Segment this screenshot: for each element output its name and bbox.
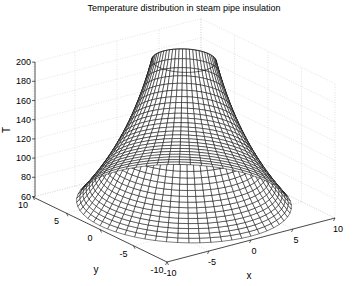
x-tick-label: -5: [208, 257, 216, 267]
mesh-cell: [168, 113, 175, 118]
mesh-cell: [188, 196, 197, 202]
y-tick-label: -10: [150, 265, 163, 275]
y-tick-label: 0: [87, 233, 92, 243]
y-tick-label: -5: [119, 249, 127, 259]
mesh-cell: [179, 202, 188, 208]
mesh-cell: [188, 208, 197, 213]
mesh-cell: [181, 131, 189, 135]
mesh-cell: [173, 127, 181, 131]
mesh-cell: [163, 189, 172, 196]
mesh-cell: [198, 223, 209, 228]
x-tick-label: -10: [163, 268, 176, 278]
mesh-cell: [188, 218, 198, 223]
z-tick-label: 60: [21, 192, 31, 202]
mesh-cell: [182, 68, 186, 76]
mesh-cell: [180, 164, 187, 171]
mesh-cell: [199, 233, 210, 238]
mesh-cell: [175, 103, 181, 109]
mesh-cell: [171, 90, 177, 97]
mesh-cell: [178, 233, 189, 238]
z-tick-label: 100: [16, 153, 31, 163]
mesh-cell: [174, 123, 181, 127]
mesh-cell: [186, 59, 190, 68]
mesh-cell: [182, 59, 186, 68]
mesh-cell: [187, 108, 193, 114]
mesh-cell: [181, 123, 188, 128]
mesh-cell: [182, 90, 187, 97]
z-axis-label: T: [1, 127, 12, 133]
mesh-cell: [191, 76, 196, 84]
mesh-cell: [181, 103, 187, 109]
x-axis-label: x: [247, 270, 252, 281]
mesh-cell: [165, 170, 173, 177]
y-tick-label: 10: [18, 200, 28, 210]
mesh-cell: [171, 196, 180, 202]
x-tick-label: 10: [333, 224, 343, 234]
mesh-cell: [180, 139, 189, 143]
mesh-cell: [175, 108, 181, 113]
mesh-cell: [206, 212, 216, 218]
mesh-cell: [157, 162, 168, 165]
mesh-cell: [190, 162, 201, 165]
mesh-cell: [169, 154, 179, 157]
mesh-cell: [180, 145, 189, 148]
mesh-cell: [202, 183, 210, 190]
mesh-cell: [162, 195, 171, 202]
mesh-cell: [187, 164, 194, 171]
mesh-cell: [179, 162, 190, 165]
mesh-cell: [188, 213, 198, 218]
mesh-cell: [178, 59, 182, 68]
z-tick-label: 120: [16, 134, 31, 144]
mesh-cell: [169, 207, 178, 213]
mesh-cell: [178, 223, 188, 228]
mesh-cell: [197, 213, 207, 219]
mesh-cell: [178, 228, 189, 233]
mesh-cell: [171, 190, 179, 196]
mesh-cell: [180, 171, 187, 178]
mesh-cell: [196, 202, 205, 208]
y-tick: [167, 262, 169, 265]
mesh-cell: [182, 97, 188, 103]
mesh-cell: [181, 118, 188, 123]
mesh-cell: [198, 218, 208, 224]
x-tick-label: 5: [293, 235, 298, 245]
mesh-cell: [188, 118, 195, 123]
mesh-cell: [179, 213, 189, 219]
mesh-cell: [187, 190, 195, 196]
mesh-cell: [176, 97, 182, 103]
mesh-cell: [188, 202, 197, 208]
mesh-cell: [192, 97, 198, 104]
mesh-cell: [199, 228, 210, 233]
mesh-cell: [177, 76, 182, 84]
mesh-cell: [175, 113, 182, 118]
mesh-cell: [170, 151, 180, 154]
mesh-cell: [181, 108, 187, 113]
mesh-cell: [182, 49, 186, 59]
mesh-cell: [179, 49, 183, 59]
mesh-cell: [187, 171, 194, 178]
mesh-cell: [173, 164, 180, 171]
mesh-cell: [204, 195, 213, 201]
mesh-cell: [192, 91, 198, 98]
mesh-cell: [169, 212, 179, 218]
mesh-cell: [181, 113, 188, 118]
mesh-cell: [194, 171, 202, 178]
mesh-cell: [188, 123, 195, 128]
mesh-cell: [163, 108, 170, 114]
chart-title: Temperature distribution in steam pipe i…: [87, 3, 280, 13]
mesh-cell: [173, 76, 178, 84]
mesh-cell: [179, 207, 188, 213]
mesh-cell: [164, 135, 173, 139]
mesh-cell: [162, 114, 169, 119]
mesh-cell: [170, 103, 176, 109]
mesh-cell: [203, 189, 212, 196]
mesh-cell: [164, 183, 172, 190]
mesh-cell: [167, 118, 174, 123]
mesh-cell: [173, 131, 181, 135]
mesh-cell: [189, 238, 200, 243]
mesh-cell: [180, 142, 189, 146]
mesh-cell: [171, 142, 180, 145]
mesh-cell: [170, 148, 180, 151]
mesh-cell: [179, 196, 188, 202]
mesh-cell: [180, 135, 188, 139]
